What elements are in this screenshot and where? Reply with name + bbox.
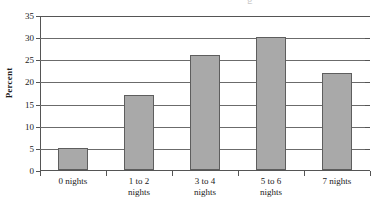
bar (58, 148, 88, 170)
bar (190, 55, 220, 170)
y-axis-tick-label: 15 (14, 100, 34, 109)
y-axis-tick-mark (36, 38, 40, 39)
bar (124, 95, 154, 170)
y-axis-tick-label: 0 (14, 167, 34, 176)
y-axis-tick-mark (36, 60, 40, 61)
bar-chart: g Percent 05101520253035 0 nights1 to 2 … (0, 0, 376, 206)
y-axis-tick-label: 5 (14, 144, 34, 153)
bar (256, 37, 286, 170)
x-axis-tick-label: 0 nights (40, 176, 106, 187)
y-axis-tick-mark (36, 82, 40, 83)
x-axis-tick-mark (304, 171, 305, 176)
x-axis-tick-label: 3 to 4 nights (172, 176, 238, 198)
x-axis-tick-mark (370, 171, 371, 176)
x-axis-tick-mark (172, 171, 173, 176)
plot-area (40, 16, 370, 171)
x-axis-tick-mark (40, 171, 41, 176)
bar (322, 73, 352, 170)
x-axis-tick-mark (106, 171, 107, 176)
x-axis-tick-label: 1 to 2 nights (106, 176, 172, 198)
y-axis-tick-labels: 05101520253035 (14, 16, 34, 171)
y-axis-tick-mark (36, 105, 40, 106)
x-axis-tick-label: 7 nights (304, 176, 370, 187)
cropped-title-remnant: g (247, 0, 267, 4)
y-axis-tick-mark (36, 16, 40, 17)
y-axis-tick-label: 20 (14, 78, 34, 87)
y-axis-tick-label: 35 (14, 12, 34, 21)
x-axis-tick-mark (238, 171, 239, 176)
y-axis-tick-label: 25 (14, 56, 34, 65)
y-axis-tick-label: 30 (14, 34, 34, 43)
x-axis-tick-labels: 0 nights1 to 2 nights3 to 4 nights5 to 6… (40, 176, 370, 206)
x-axis-line (40, 170, 370, 171)
x-axis-tick-label: 5 to 6 nights (238, 176, 304, 198)
y-axis-title: Percent (4, 53, 14, 113)
y-axis-tick-mark (36, 127, 40, 128)
y-axis-tick-label: 10 (14, 122, 34, 131)
bar-series (40, 16, 370, 171)
y-axis-tick-mark (36, 149, 40, 150)
